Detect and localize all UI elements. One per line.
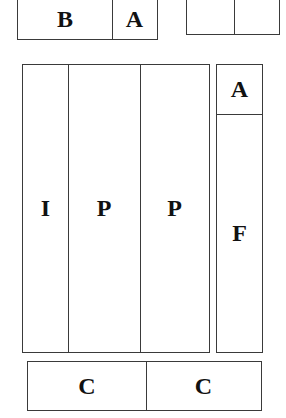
cell-f: F [217,114,262,352]
cell-i: I [23,65,68,352]
top-right-box [186,0,280,35]
cell-c-2: C [146,362,261,410]
cell-empty-left [187,0,234,34]
cell-empty-right [234,0,279,34]
bottom-box: C C [27,361,262,411]
top-left-box: B A [17,0,158,40]
cell-c-1: C [28,362,146,410]
cell-a-top: A [112,0,157,39]
cell-a-right: A [217,65,262,114]
right-box: A F [216,64,263,353]
main-box: I P P [22,64,210,353]
cell-p-2: P [140,65,209,352]
cell-b: B [18,0,112,39]
cell-p-1: P [68,65,140,352]
